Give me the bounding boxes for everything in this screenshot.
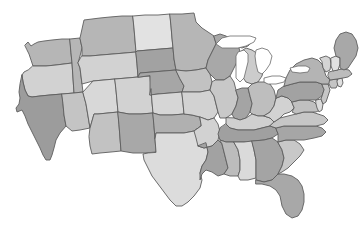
state-north-carolina[interactable] [276, 126, 326, 142]
state-washington[interactable] [25, 39, 72, 66]
state-north-dakota[interactable] [133, 14, 173, 52]
state-montana[interactable] [80, 16, 136, 56]
state-colorado[interactable] [115, 76, 153, 114]
state-massachusetts[interactable] [328, 69, 352, 80]
us-map-svg [0, 0, 363, 229]
state-arizona[interactable] [89, 112, 121, 154]
us-choropleth-map [0, 0, 363, 229]
lake-erie [264, 76, 286, 84]
state-new-mexico[interactable] [118, 112, 156, 153]
state-rhode-island[interactable] [337, 78, 343, 87]
state-new-hampshire[interactable] [331, 56, 340, 71]
lake-ontario [290, 66, 310, 73]
state-oregon[interactable] [22, 63, 74, 97]
lake-superior [216, 36, 256, 48]
lake-huron [255, 48, 272, 74]
